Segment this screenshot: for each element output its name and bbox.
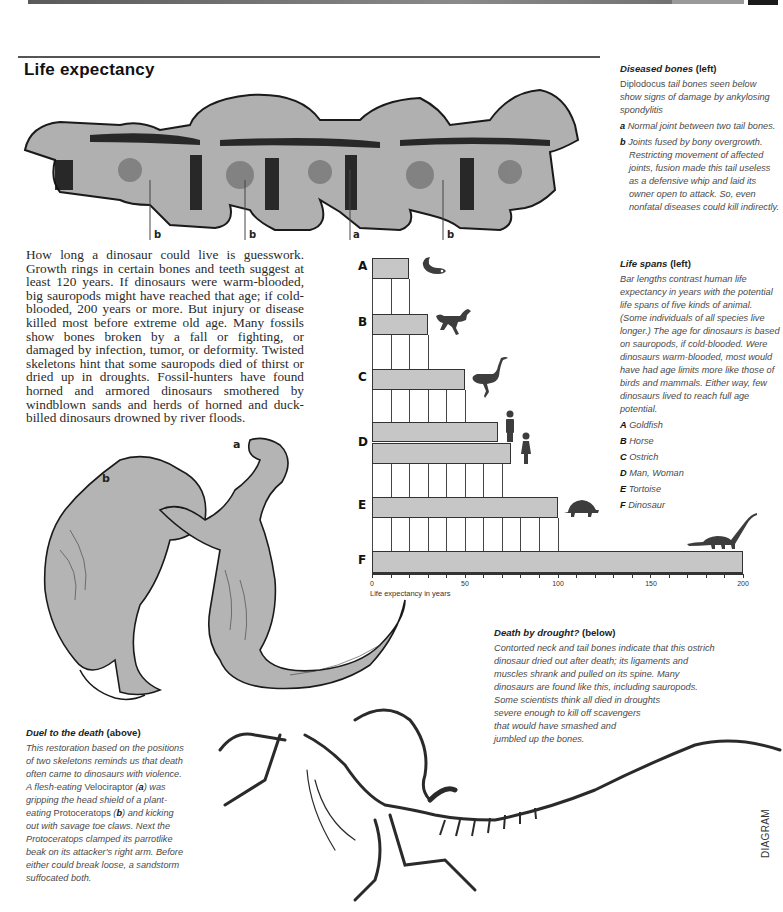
genus-velociraptor: Velociraptor xyxy=(84,782,133,792)
duel-label-b: b xyxy=(102,472,110,485)
header-bar xyxy=(28,0,743,4)
caption-diseased-bones: Diseased bones (left) Diplodocus tail bo… xyxy=(620,62,780,214)
caption-duel-to-the-death: Duel to the death (above) This restorati… xyxy=(26,726,186,885)
caption-item-b: b Joints fused by bony overgrowth. Restr… xyxy=(620,136,780,214)
caption-line: muscles shrank and pulled on its spine. … xyxy=(494,668,754,681)
tick-label-150: 150 xyxy=(645,580,657,587)
caption-title-text: Diseased bones xyxy=(620,63,693,74)
gridline xyxy=(409,335,410,369)
gridline xyxy=(465,518,466,551)
gridline xyxy=(520,518,521,551)
item-key: a xyxy=(620,121,625,131)
caption-item-a: a Normal joint between two tail bones. xyxy=(620,120,780,133)
gridline xyxy=(391,390,392,422)
x-tick xyxy=(520,574,521,578)
body-paragraph: How long a dinosaur could live is guessw… xyxy=(26,248,304,425)
genus-name: Diplodocus xyxy=(620,79,665,89)
bone-label-b-1: b xyxy=(154,229,161,240)
gridline xyxy=(483,464,484,497)
tick-label-50: 50 xyxy=(461,580,469,587)
item-text: Joints fused by bony overgrowth. Restric… xyxy=(628,137,779,212)
gridline xyxy=(428,518,429,551)
caption-title: Duel to the death (above) xyxy=(26,726,186,739)
x-tick xyxy=(428,574,429,578)
title-rule xyxy=(18,56,600,58)
x-tick xyxy=(632,574,633,578)
x-tick xyxy=(706,574,707,578)
life-span-bar-chart: A B C D E F 0 50 100 150 200 Life expect… xyxy=(350,250,770,600)
bar-horse xyxy=(372,314,428,335)
bar-label-b: B xyxy=(358,315,367,329)
side-marker: DIAGRAM xyxy=(760,809,771,858)
header-chip xyxy=(672,0,744,4)
diseased-tail-bones-illustration xyxy=(20,80,580,245)
man-icon xyxy=(504,410,516,442)
page-number-badge xyxy=(748,0,778,5)
x-tick xyxy=(743,574,744,578)
gridline xyxy=(372,335,373,369)
gridline xyxy=(372,279,373,314)
gridline xyxy=(446,390,447,422)
bone-label-a: a xyxy=(353,229,360,240)
caption-title: Diseased bones (left) xyxy=(620,62,780,75)
caption-title: Death by drought? (below) xyxy=(494,626,754,639)
x-tick xyxy=(650,574,651,578)
gridline xyxy=(502,518,503,551)
woman-icon xyxy=(520,432,532,464)
caption-title-text: Death by drought? xyxy=(494,627,579,638)
ostrich-dinosaur-skeleton-illustration xyxy=(215,690,783,912)
x-tick xyxy=(465,574,466,578)
bar-label-c: C xyxy=(358,370,367,384)
gridline xyxy=(502,464,503,497)
gridline xyxy=(391,335,392,369)
goldfish-icon xyxy=(418,256,448,280)
gridline xyxy=(465,390,466,422)
caption-text: ) and kicking out with savage toe claws.… xyxy=(26,808,183,883)
gridline xyxy=(446,464,447,497)
gridline xyxy=(428,335,429,369)
caption-intro: Diplodocus tail bones seen below show si… xyxy=(620,78,780,117)
duel-label-a: a xyxy=(233,438,240,451)
x-tick xyxy=(576,574,577,578)
caption-direction: (below) xyxy=(582,627,616,638)
x-tick xyxy=(446,574,447,578)
bar-label-a: A xyxy=(358,259,367,273)
x-tick xyxy=(687,574,688,578)
bar-goldfish xyxy=(372,258,409,279)
x-tick xyxy=(724,574,725,578)
gridline xyxy=(558,518,559,551)
bone-label-b-3: b xyxy=(447,229,454,240)
tortoise-icon xyxy=(564,498,600,518)
ostrich-icon xyxy=(471,356,511,400)
duel-velociraptor-protoceratops-illustration xyxy=(20,430,410,705)
x-tick xyxy=(483,574,484,578)
gridline xyxy=(446,518,447,551)
gridline xyxy=(428,464,429,497)
sauropod-icon xyxy=(685,512,760,552)
gridline xyxy=(391,279,392,314)
tick-label-100: 100 xyxy=(552,580,564,587)
bar-ostrich xyxy=(372,369,465,390)
page-title: Life expectancy xyxy=(24,60,155,80)
gridline xyxy=(465,464,466,497)
x-tick xyxy=(539,574,540,578)
gridline xyxy=(409,390,410,422)
bar-dinosaur xyxy=(372,551,743,573)
x-tick xyxy=(558,574,559,578)
caption-line: Contorted neck and tail bones indicate t… xyxy=(494,642,754,655)
horse-icon xyxy=(434,308,474,336)
x-tick xyxy=(595,574,596,578)
item-key: b xyxy=(620,137,626,147)
gridline xyxy=(428,390,429,422)
item-text: Normal joint between two tail bones. xyxy=(628,121,776,131)
x-tick xyxy=(613,574,614,578)
tick-label-200: 200 xyxy=(737,580,749,587)
caption-line: dinosaur dried out after death; its liga… xyxy=(494,655,754,668)
gridline xyxy=(483,518,484,551)
caption-direction: (left) xyxy=(696,63,717,74)
x-tick xyxy=(669,574,670,578)
gridline xyxy=(409,279,410,314)
bone-label-b-2: b xyxy=(249,229,256,240)
gridline xyxy=(372,390,373,422)
caption-title-text: Duel to the death xyxy=(26,727,104,738)
